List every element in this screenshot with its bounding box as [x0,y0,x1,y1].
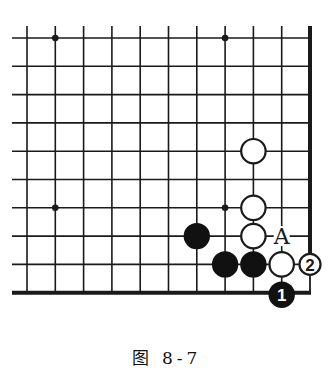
black-stone [184,223,210,249]
stones: 21 [184,139,321,308]
white-stone-body [241,139,265,163]
black-stone-body [184,223,210,249]
black-stone [240,251,266,277]
star-point [222,205,229,212]
black-stone-body [212,251,238,277]
black-stone [212,251,238,277]
marker-label-a: A [273,224,291,249]
star-point [222,35,229,42]
white-stone [270,252,294,276]
white-stone-body [241,224,265,248]
black-stone-body [240,251,266,277]
markers: A [273,224,291,249]
white-stone [241,224,265,248]
white-stone [241,139,265,163]
go-board: 21 A [0,0,333,340]
stone-label: 2 [305,256,314,275]
star-point [52,35,59,42]
black-stone-1: 1 [269,282,295,308]
figure-caption: 图 8-7 [0,344,333,369]
stone-label: 1 [277,286,286,305]
white-stone-body [270,252,294,276]
white-stone [241,196,265,220]
white-stone-body [241,196,265,220]
grid-lines [12,26,311,293]
white-stone-2: 2 [300,254,321,275]
star-point [52,205,59,212]
